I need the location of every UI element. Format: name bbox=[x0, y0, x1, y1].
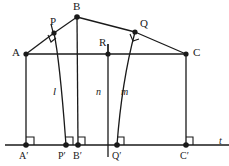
segment-B-Bprime bbox=[77, 17, 78, 145]
figure-canvas bbox=[0, 0, 229, 166]
segment-A-P bbox=[26, 33, 54, 54]
point-dot-Cprime bbox=[183, 142, 189, 148]
point-label-P: P bbox=[50, 16, 56, 27]
point-label-A: A bbox=[12, 47, 20, 58]
point-label-R: R bbox=[99, 37, 106, 48]
curve-label-m: m bbox=[121, 87, 128, 97]
point-dot-Bprime bbox=[75, 142, 81, 148]
point-dot-Pprime bbox=[63, 142, 69, 148]
point-dot-Q bbox=[132, 29, 137, 34]
point-label-Cprime: C′ bbox=[180, 151, 189, 161]
point-dot-B bbox=[74, 14, 80, 20]
curve-label-l: l bbox=[53, 86, 56, 97]
geometry-figure: A P B Q R C A′ P′ B′ Q′ C′ l n m t bbox=[0, 0, 229, 166]
point-dot-P bbox=[51, 30, 56, 35]
point-label-C: C bbox=[193, 47, 200, 58]
point-label-Qprime: Q′ bbox=[112, 151, 121, 161]
point-dot-C bbox=[183, 51, 188, 56]
point-dot-A bbox=[23, 51, 28, 56]
segment-B-Q bbox=[77, 17, 135, 32]
segment-P-B bbox=[54, 17, 77, 33]
point-label-Aprime: A′ bbox=[19, 151, 28, 161]
point-label-Pprime: P′ bbox=[58, 151, 66, 161]
point-label-Q: Q bbox=[140, 18, 148, 29]
point-label-B: B bbox=[73, 1, 80, 12]
point-dot-Qprime bbox=[114, 142, 120, 148]
point-dot-R bbox=[105, 51, 110, 56]
segment-Q-C bbox=[135, 32, 186, 54]
axis-label-t: t bbox=[219, 136, 222, 146]
curve-label-n: n bbox=[96, 87, 101, 97]
point-dot-Aprime bbox=[23, 142, 29, 148]
point-label-Bprime: B′ bbox=[73, 151, 82, 161]
